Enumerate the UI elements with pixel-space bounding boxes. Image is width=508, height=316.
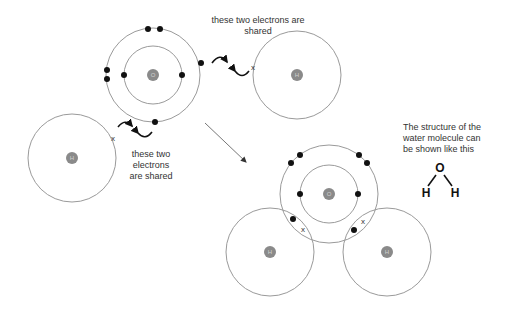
curly-arrow-icon xyxy=(212,57,227,63)
structural-formula: O H H xyxy=(422,161,460,200)
formula-hydrogen-right: H xyxy=(451,186,460,200)
hydrogen-symbol: H xyxy=(268,249,272,255)
electron xyxy=(355,191,361,197)
curly-arrow-icon xyxy=(235,71,249,76)
shared-electron-cross: x xyxy=(361,217,365,226)
reaction-arrow-icon xyxy=(205,123,246,162)
hydrogen-electron-cross: x xyxy=(251,63,255,72)
oxygen-atom-separate: O xyxy=(104,26,204,125)
hydrogen-symbol: H xyxy=(385,249,389,255)
electron xyxy=(364,160,370,166)
hydrogen-atom-left-separate: H x xyxy=(28,114,116,202)
electron xyxy=(104,67,110,73)
structure-caption: The structure of the water molecule can … xyxy=(403,122,493,155)
water-molecule-combined: O H x H x xyxy=(226,145,431,296)
shared-electron-cross: x xyxy=(301,225,305,234)
curly-arrow-icon xyxy=(118,122,132,127)
electron xyxy=(297,191,303,197)
oxygen-symbol: O xyxy=(151,72,156,78)
electron xyxy=(356,152,362,158)
shared-electrons-label-top: these two electrons are shared xyxy=(208,15,308,37)
oxygen-symbol: O xyxy=(327,191,332,197)
electron xyxy=(152,119,158,125)
hydrogen-electron-cross: x xyxy=(111,134,115,143)
electron xyxy=(179,72,185,78)
electron xyxy=(157,26,163,32)
electron xyxy=(104,76,110,82)
formula-oxygen: O xyxy=(435,161,444,175)
diagram-canvas: O H x H x xyxy=(0,0,508,316)
formula-hydrogen-left: H xyxy=(422,186,431,200)
electron xyxy=(288,160,294,166)
electron xyxy=(297,152,303,158)
water-molecule-diagram: O H x H x xyxy=(0,0,508,316)
electron xyxy=(145,26,151,32)
electron xyxy=(198,60,204,66)
shared-electron xyxy=(290,216,296,222)
shared-electrons-label-left: these two electrons are shared xyxy=(126,149,176,182)
electron xyxy=(121,72,127,78)
shared-electron xyxy=(351,227,357,233)
hydrogen-atom-right-separate: H x xyxy=(251,31,341,119)
bond-line xyxy=(428,175,436,186)
curly-arrow-icon xyxy=(138,132,152,137)
bond-line xyxy=(444,175,452,186)
hydrogen-symbol: H xyxy=(295,72,299,78)
hydrogen-symbol: H xyxy=(70,155,74,161)
